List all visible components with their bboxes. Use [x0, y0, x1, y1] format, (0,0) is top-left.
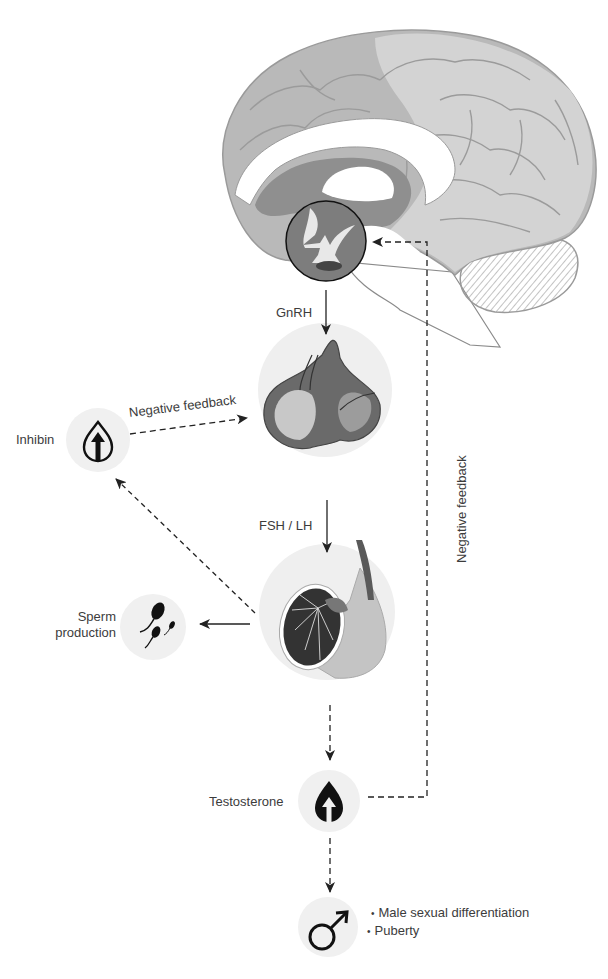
testosterone-feedback-arrow [368, 242, 427, 797]
sperm-node [120, 594, 186, 660]
sperm-production-label-line2: production [48, 625, 116, 641]
sperm-production-label: Sperm production [48, 609, 116, 640]
testosterone-label: Testosterone [209, 794, 283, 810]
sperm-production-label-line1: Sperm [48, 609, 116, 625]
effect-item: Puberty [367, 922, 529, 940]
gnrh-label: GnRH [276, 305, 312, 321]
male-effects-list: Male sexual differentiation Puberty [371, 904, 529, 940]
testis-to-inhibin-arrow [116, 479, 255, 613]
inhibin-label: Inhibin [16, 432, 54, 448]
diagram-canvas [0, 0, 608, 979]
testosterone-negative-feedback-label: Negative feedback [454, 455, 470, 563]
testis-illustration [259, 540, 395, 680]
effect-item: Male sexual differentiation [371, 904, 529, 922]
brain-illustration [223, 30, 596, 347]
pituitary-illustration [258, 323, 392, 457]
inhibin-feedback-arrow [130, 418, 247, 434]
fsh-lh-label: FSH / LH [259, 518, 312, 534]
